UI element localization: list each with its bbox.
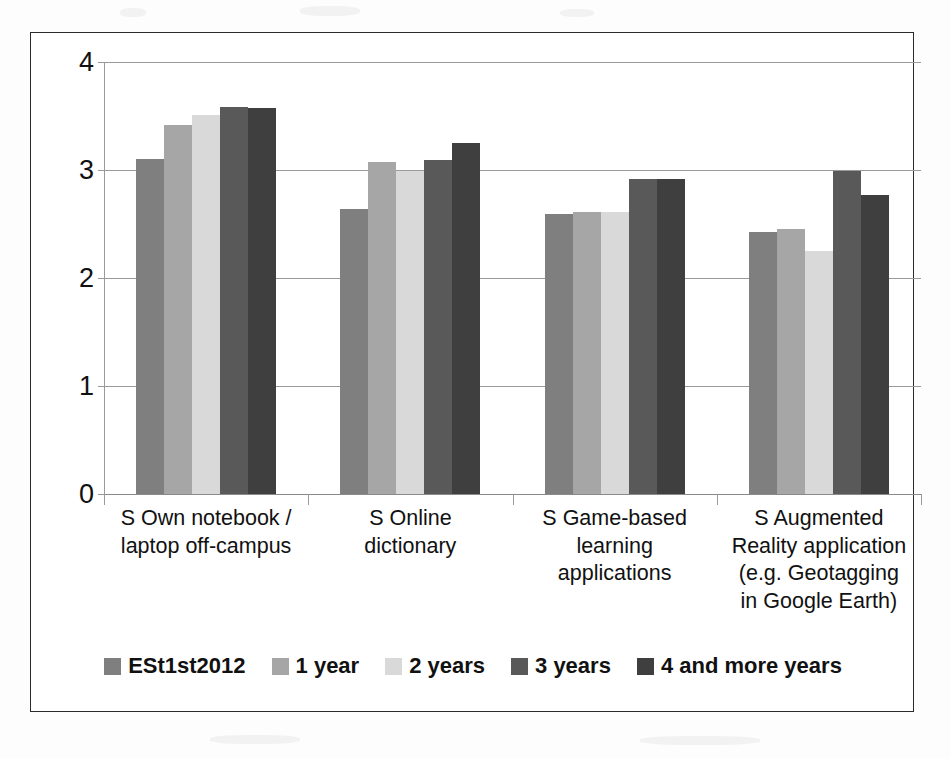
- bar-group: [513, 62, 717, 494]
- y-tick-label-4: 4: [79, 49, 94, 76]
- bar: [424, 160, 452, 494]
- bar: [861, 195, 889, 494]
- x-axis-category-label: S Game-basedlearningapplications: [513, 505, 717, 615]
- bar: [136, 159, 164, 494]
- bars-layer: [104, 62, 921, 494]
- legend-item[interactable]: 2 years: [385, 655, 485, 677]
- chart-container: 4 3 2 1 0 S Own: [30, 32, 914, 712]
- bar: [749, 232, 777, 494]
- bar-group: [717, 62, 921, 494]
- legend-label: 3 years: [535, 655, 611, 677]
- legend-label: 2 years: [409, 655, 485, 677]
- x-axis-category-label: S Own notebook /laptop off-campus: [104, 505, 308, 615]
- scan-speckle: [560, 9, 594, 17]
- legend-swatch-icon: [104, 658, 121, 675]
- y-axis-labels: 4 3 2 1 0: [31, 62, 104, 494]
- chart-legend: ESt1st20121 year2 years3 years4 and more…: [31, 655, 915, 677]
- plot-area: [104, 62, 921, 494]
- bar: [833, 171, 861, 494]
- x-axis-tick: [717, 494, 718, 505]
- bar: [340, 209, 368, 494]
- legend-label: 4 and more years: [661, 655, 842, 677]
- legend-swatch-icon: [385, 658, 402, 675]
- y-tick-label-1: 1: [79, 373, 94, 400]
- bar: [220, 107, 248, 494]
- bar-group: [308, 62, 512, 494]
- bar: [601, 212, 629, 494]
- bar: [396, 171, 424, 494]
- y-tick-label-2: 2: [79, 265, 94, 292]
- legend-label: ESt1st2012: [128, 655, 245, 677]
- x-axis-category-label: S AugmentedReality application(e.g. Geot…: [717, 505, 921, 615]
- bar: [368, 162, 396, 494]
- bar: [248, 108, 276, 494]
- legend-swatch-icon: [272, 658, 289, 675]
- legend-label: 1 year: [296, 655, 360, 677]
- bar: [777, 229, 805, 494]
- bar: [452, 143, 480, 494]
- x-axis-category-labels: S Own notebook /laptop off-campusS Onlin…: [104, 505, 921, 615]
- y-tick-label-0: 0: [79, 481, 94, 508]
- x-axis-tick: [104, 494, 105, 505]
- x-axis-tick: [308, 494, 309, 505]
- bar: [164, 125, 192, 494]
- scanned-page: 4 3 2 1 0 S Own: [0, 0, 951, 759]
- legend-swatch-icon: [511, 658, 528, 675]
- legend-item[interactable]: 4 and more years: [637, 655, 842, 677]
- bar: [657, 179, 685, 494]
- legend-item[interactable]: 3 years: [511, 655, 611, 677]
- scan-speckle: [640, 736, 760, 745]
- legend-item[interactable]: ESt1st2012: [104, 655, 245, 677]
- y-tick-label-3: 3: [79, 157, 94, 184]
- bar: [573, 212, 601, 494]
- scan-speckle: [210, 735, 300, 744]
- bar: [192, 115, 220, 494]
- legend-swatch-icon: [637, 658, 654, 675]
- scan-speckle: [120, 8, 146, 17]
- x-axis-tick: [921, 494, 922, 505]
- bar: [805, 251, 833, 494]
- x-axis-tick: [513, 494, 514, 505]
- bar-group: [104, 62, 308, 494]
- bar: [545, 214, 573, 494]
- bar: [629, 179, 657, 494]
- x-axis-category-label: S Onlinedictionary: [308, 505, 512, 615]
- legend-item[interactable]: 1 year: [272, 655, 360, 677]
- scan-speckle: [300, 6, 360, 16]
